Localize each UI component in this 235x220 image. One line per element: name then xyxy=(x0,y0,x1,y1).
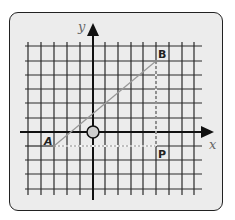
point-a-label: A xyxy=(44,136,53,147)
origin-circle-icon xyxy=(87,126,99,138)
coordinate-grid xyxy=(0,0,235,220)
y-axis-label: y xyxy=(78,20,85,33)
y-axis-arrow-icon xyxy=(87,23,99,36)
point-b-label: B xyxy=(158,49,166,60)
grid-lines xyxy=(25,42,202,195)
point-p-label: P xyxy=(158,149,166,160)
x-axis-label: x xyxy=(209,138,216,151)
